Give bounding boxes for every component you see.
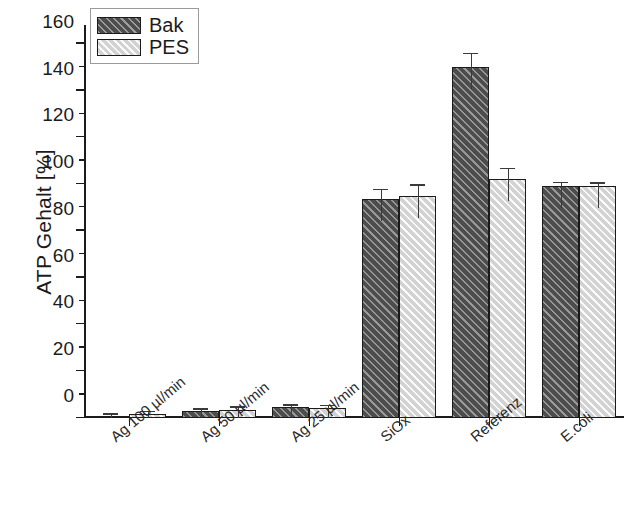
y-tick-major [76, 370, 84, 371]
legend-entry-bak: Bak [97, 14, 189, 36]
y-tick-major [76, 276, 84, 277]
y-tick-major [76, 183, 84, 184]
y-tick-label: 40 [16, 291, 74, 313]
plot-area: 020406080100120140160 [84, 25, 624, 418]
y-tick-major [76, 417, 84, 418]
y-tick-major [76, 42, 84, 43]
y-tick-label: 160 [16, 11, 74, 33]
y-tick-major [76, 136, 84, 137]
legend: Bak PES [90, 8, 199, 64]
y-tick-major [76, 229, 84, 230]
legend-swatch-pes-icon [97, 39, 141, 56]
x-tick-layer [84, 25, 624, 418]
legend-label-pes: PES [149, 37, 189, 57]
y-tick-label: 80 [16, 198, 74, 220]
y-tick-label: 140 [16, 58, 74, 80]
y-tick-major [76, 89, 84, 90]
y-tick-major [76, 323, 84, 324]
legend-swatch-bak-icon [97, 17, 141, 34]
y-tick-label: 60 [16, 245, 74, 267]
legend-entry-pes: PES [97, 36, 189, 58]
y-tick-label: 0 [16, 385, 74, 407]
y-tick-label: 20 [16, 338, 74, 360]
y-tick-label: 100 [16, 151, 74, 173]
y-tick-label: 120 [16, 104, 74, 126]
chart-root: ATP Gehalt [%] 020406080100120140160 Ag … [0, 0, 639, 531]
legend-label-bak: Bak [149, 15, 183, 35]
